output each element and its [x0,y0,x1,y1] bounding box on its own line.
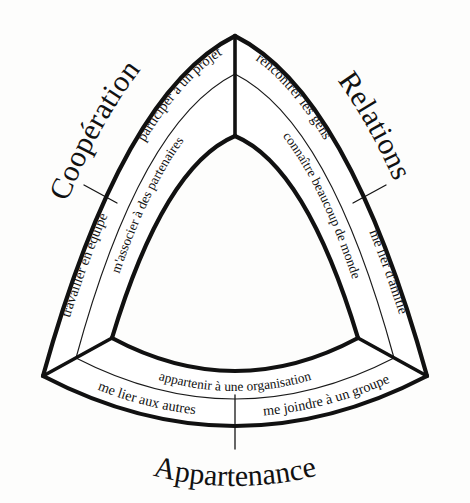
label-appartenance-text: Appartenance [151,449,319,492]
diagram-canvas: Coopération Relations Appartenance parti… [0,0,470,503]
triangle-band-diagram: Coopération Relations Appartenance parti… [0,0,470,503]
label-appartenance: Appartenance [151,449,319,492]
